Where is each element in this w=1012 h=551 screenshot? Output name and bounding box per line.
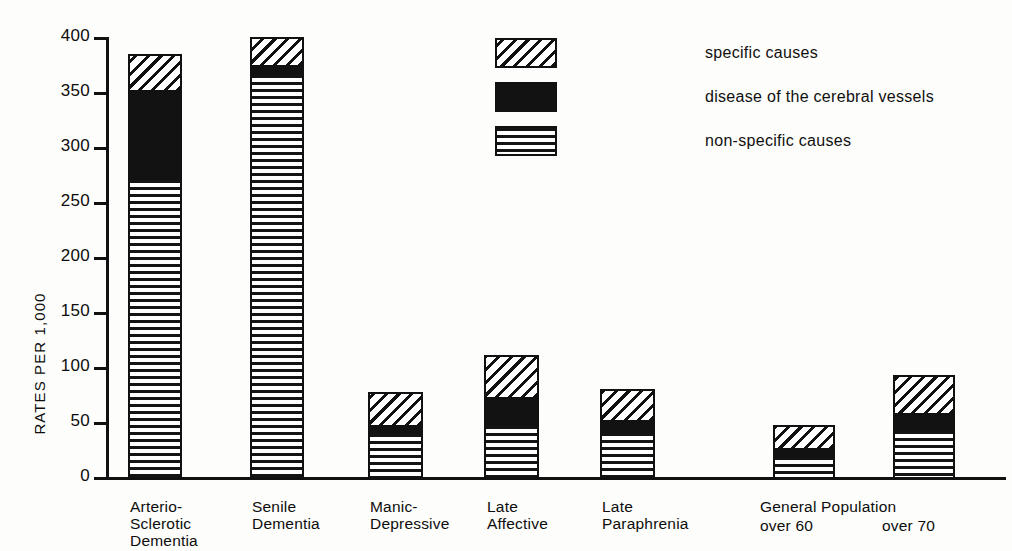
x-axis-label-line: Paraphrenia (602, 515, 689, 532)
x-axis-group-sub-over-60: over 60 (760, 517, 813, 534)
bar-segment-cerebral-vessels (370, 427, 421, 434)
bar-3 (368, 392, 423, 479)
legend-label: specific causes (705, 44, 818, 62)
legend-label: non-specific causes (705, 132, 851, 150)
x-axis-label-line: Dementia (252, 515, 320, 532)
x-axis-label-1: Arterio-ScleroticDementia (130, 498, 198, 549)
x-axis-label-line: Dementia (130, 532, 198, 549)
bar-segment-specific-causes (602, 391, 653, 422)
bar-segment-specific-causes (895, 377, 953, 416)
bar-7 (893, 375, 955, 479)
x-axis-label-line: Manic- (370, 498, 450, 515)
x-axis-label-line: Sclerotic (130, 515, 198, 532)
bar-segment-cerebral-vessels (252, 67, 302, 76)
bar-segment-specific-causes (775, 427, 833, 450)
bar-2 (250, 37, 304, 479)
x-axis-label-line: Senile (252, 498, 320, 515)
chart-legend: specific causes disease of the cerebral … (495, 36, 557, 168)
bar-segment-specific-causes (370, 394, 421, 427)
bar-segment-non-specific-causes (486, 426, 537, 477)
legend-swatch-cerebral-vessels-icon (495, 82, 557, 112)
bar-segment-specific-causes (130, 56, 180, 92)
bar-segment-cerebral-vessels (602, 422, 653, 433)
bar-segment-non-specific-causes (775, 457, 833, 477)
x-axis-label-line: Late (602, 498, 689, 515)
x-axis-label-2: SenileDementia (252, 498, 320, 532)
bar-segment-specific-causes (252, 39, 302, 67)
legend-label: disease of the cerebral vessels (705, 88, 934, 106)
x-axis-group-sub-over-70: over 70 (882, 517, 935, 534)
bar-segment-specific-causes (486, 357, 537, 399)
bar-segment-cerebral-vessels (775, 450, 833, 457)
x-axis-label-3: Manic-Depressive (370, 498, 450, 532)
chart-page: RATES PER 1,000 400350300250200150100500… (0, 0, 1012, 551)
x-axis-label-line: Late (487, 498, 548, 515)
x-axis-label-line: Depressive (370, 515, 450, 532)
legend-item: non-specific causes (495, 124, 557, 158)
x-axis-label-line: Affective (487, 515, 548, 532)
legend-swatch-specific-causes-icon (495, 38, 557, 68)
bar-segment-cerebral-vessels (486, 399, 537, 427)
legend-item: specific causes (495, 36, 557, 70)
bar-segment-non-specific-causes (602, 433, 653, 477)
x-axis-label-5: LateParaphrenia (602, 498, 689, 532)
bar-segment-cerebral-vessels (895, 415, 953, 430)
bar-segment-cerebral-vessels (130, 92, 180, 180)
bar-segment-non-specific-causes (370, 434, 421, 477)
bar-5 (600, 389, 655, 479)
x-axis-group-heading: General Population (760, 498, 896, 515)
bar-6 (773, 425, 835, 479)
x-axis-label-line: Arterio- (130, 498, 198, 515)
legend-swatch-non-specific-causes-icon (495, 126, 557, 156)
bar-segment-non-specific-causes (130, 180, 180, 477)
bar-segment-non-specific-causes (895, 431, 953, 477)
legend-item: disease of the cerebral vessels (495, 80, 557, 114)
bar-1 (128, 54, 182, 480)
bar-segment-non-specific-causes (252, 75, 302, 477)
x-axis-label-4: LateAffective (487, 498, 548, 532)
bar-4 (484, 355, 539, 479)
